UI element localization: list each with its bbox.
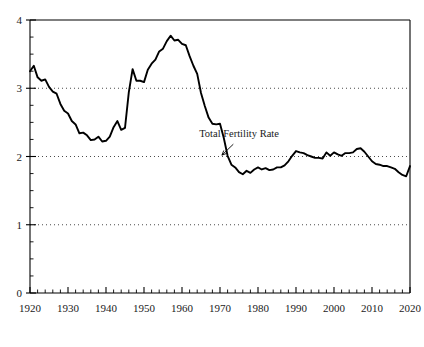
x-tick-label: 2000	[323, 302, 346, 314]
x-tick-label: 2020	[399, 302, 422, 314]
y-tick-label: 4	[17, 14, 23, 26]
x-tick-label: 1960	[171, 302, 194, 314]
annotation-text: Total Fertility Rate	[199, 128, 279, 139]
x-tick-label: 2010	[361, 302, 384, 314]
fertility-rate-chart: 01234 1920193019401950196019701980199020…	[0, 0, 424, 347]
x-tick-label: 1930	[57, 302, 80, 314]
y-axis-tick-labels: 01234	[17, 14, 23, 299]
x-tick-label: 1950	[133, 302, 156, 314]
x-tick-label: 1970	[209, 302, 232, 314]
y-tick-label: 0	[17, 287, 23, 299]
x-tick-label: 1920	[19, 302, 42, 314]
x-tick-label: 1980	[247, 302, 270, 314]
x-tick-label: 1990	[285, 302, 308, 314]
x-axis-tick-labels: 1920193019401950196019701980199020002010…	[19, 302, 422, 314]
chart-canvas: 01234 1920193019401950196019701980199020…	[0, 0, 424, 347]
y-tick-label: 1	[17, 219, 23, 231]
plot-background	[30, 20, 410, 293]
x-tick-label: 1940	[95, 302, 118, 314]
y-tick-label: 2	[17, 151, 23, 163]
y-tick-label: 3	[17, 82, 23, 94]
